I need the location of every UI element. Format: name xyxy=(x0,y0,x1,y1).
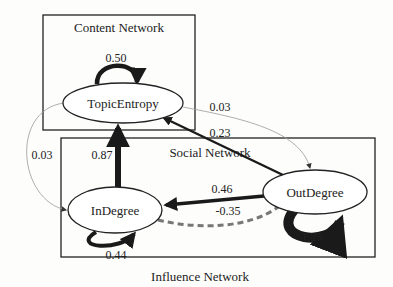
node-in-degree-label: InDegree xyxy=(91,203,140,218)
edge-te-self-weight: 0.50 xyxy=(106,51,127,65)
edge-te-to-out-weight: 0.03 xyxy=(210,100,231,114)
social-network-label: Social Network xyxy=(169,145,251,160)
edge-te-to-in-weight: 0.03 xyxy=(32,148,53,162)
content-network-label: Content Network xyxy=(74,20,164,35)
node-out-degree-label: OutDegree xyxy=(286,185,343,200)
node-topic-entropy-label: TopicEntropy xyxy=(87,96,159,111)
edge-te-self xyxy=(97,66,137,84)
node-out-degree[interactable]: OutDegree xyxy=(263,170,367,214)
edge-out-self-weight: 1.25 xyxy=(302,230,323,244)
node-topic-entropy[interactable]: TopicEntropy xyxy=(63,83,183,123)
influence-network-label: Influence Network xyxy=(151,269,249,284)
edge-in-self-weight: 0.44 xyxy=(106,248,127,262)
node-in-degree[interactable]: InDegree xyxy=(68,187,162,233)
edge-out-to-in-weight: 0.46 xyxy=(212,182,233,196)
edge-in-to-out-negative-weight: -0.35 xyxy=(216,204,241,218)
edge-in-to-te-weight: 0.87 xyxy=(92,148,113,162)
influence-diagram: Content Network Social Network Influence… xyxy=(0,0,393,287)
edge-out-to-te-weight: 0.23 xyxy=(210,126,231,140)
edge-in-self xyxy=(89,232,134,246)
